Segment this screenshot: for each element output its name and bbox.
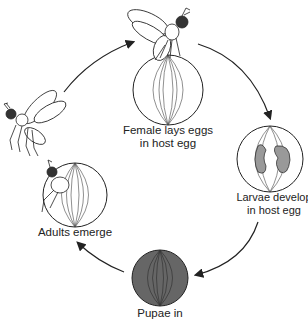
stage-label-lay: Female lays eggs in host egg [120,124,216,150]
stage-label-line1: Pupae in [120,307,200,320]
female-wasp-icon [124,5,190,63]
stage-label-line1: Female lays eggs [120,124,216,137]
arrow-pupae-to-emerge [78,243,124,272]
stage-label-line1: Larvae develop [236,191,308,204]
host-egg-top [133,55,203,125]
host-egg-pupae [132,250,188,306]
arrow-lay-to-larvae [198,44,270,118]
life-cycle-diagram [0,0,308,322]
stage-label-larvae: Larvae develop in host egg [236,191,308,217]
stage-label-line2: in host egg [236,204,308,217]
arrow-emerge-to-lay [64,42,133,92]
arrow-larvae-to-pupae [196,222,258,275]
flying-wasp-icon [4,86,69,156]
larva-icon [255,145,266,173]
stage-label-emerge: Adults emerge [33,226,117,239]
stage-label-line1: Adults emerge [33,226,117,239]
host-egg-larvae [237,126,303,192]
stage-label-line2: in host egg [120,137,216,150]
stage-label-pupae: Pupae in [120,307,200,320]
